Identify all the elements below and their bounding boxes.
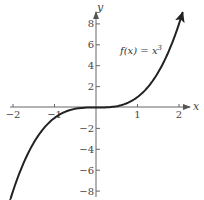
cubic-function-graph: −2−112 8642−2−4−6−8 x y f(x) = x3 (0, 0, 204, 200)
y-tick-label: 6 (88, 39, 94, 50)
y-tick-label: −4 (79, 144, 94, 155)
y-tick-label: −8 (79, 186, 94, 197)
y-tick-label: −6 (79, 165, 94, 176)
x-tick-label: 2 (176, 109, 182, 120)
function-label-base: f(x) = x (119, 45, 158, 56)
y-tick-label: 4 (88, 60, 94, 71)
x-tick-label: −2 (6, 109, 21, 120)
y-tick-label: 8 (88, 18, 94, 29)
function-label: f(x) = x3 (119, 44, 163, 56)
x-tick-label: 1 (134, 109, 140, 120)
y-tick-label: −2 (79, 123, 94, 134)
x-axis-ticks: −2−112 (6, 104, 183, 120)
y-axis-label: y (96, 1, 104, 14)
cubic-curve (11, 12, 183, 199)
function-label-exponent: 3 (158, 44, 163, 52)
x-axis-label: x (193, 100, 200, 113)
y-tick-label: 2 (88, 81, 94, 92)
